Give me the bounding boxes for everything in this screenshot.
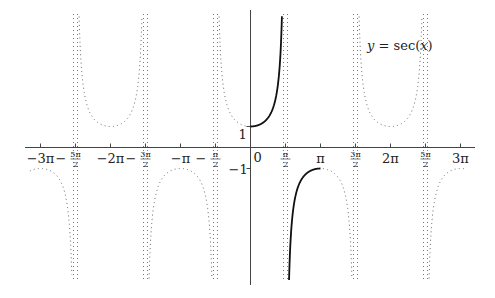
x-tick-labels: −3π−5π2−2π−3π2−π−π20π2π3π22π5π23π	[27, 150, 470, 169]
x-tick-label: −π2	[196, 150, 221, 169]
secant-plot: −3π−5π2−2π−3π2−π−π20π2π3π22π5π23π 1 −1 y…	[0, 0, 495, 298]
x-tick-label: −2π	[97, 151, 125, 166]
x-tick-label: −5π2	[56, 150, 81, 169]
svg-text:π: π	[283, 150, 288, 159]
x-tick-label: 5π2	[420, 150, 430, 169]
secant-dotted-branch	[359, 16, 422, 126]
secant-dotted-branch	[30, 169, 72, 275]
x-tick-label: −3π	[27, 151, 55, 166]
svg-text:2: 2	[283, 160, 288, 169]
x-tick-label: π2	[281, 150, 291, 169]
svg-text:−: −	[196, 151, 207, 166]
function-label: y = sec(x)	[366, 38, 433, 53]
secant-dotted-branch	[149, 169, 212, 279]
x-tick-label: 3π	[452, 151, 469, 166]
svg-text:2: 2	[143, 160, 148, 169]
svg-text:3π: 3π	[140, 150, 150, 159]
x-tick-label: 3π2	[350, 150, 360, 169]
secant-dotted-branch	[429, 169, 464, 279]
svg-text:−: −	[56, 151, 67, 166]
svg-text:3π: 3π	[350, 150, 360, 159]
secant-dotted-branch	[79, 16, 142, 126]
y-tick-label-minus-1: −1	[229, 162, 248, 177]
svg-text:π: π	[213, 150, 218, 159]
x-tick-label: 2π	[382, 151, 399, 166]
svg-text:2: 2	[423, 160, 428, 169]
svg-text:2: 2	[73, 160, 78, 169]
y-tick-label-1: 1	[239, 127, 247, 142]
x-tick-label: π	[316, 151, 325, 166]
svg-text:5π: 5π	[420, 150, 430, 159]
secant-principal-branch	[251, 16, 321, 280]
svg-text:2: 2	[213, 160, 218, 169]
svg-text:−: −	[126, 151, 137, 166]
svg-text:2: 2	[353, 160, 358, 169]
x-tick-label: −3π2	[126, 150, 151, 169]
svg-text:5π: 5π	[70, 150, 80, 159]
x-tick-label: −π	[171, 151, 191, 166]
origin-label: 0	[254, 150, 262, 165]
